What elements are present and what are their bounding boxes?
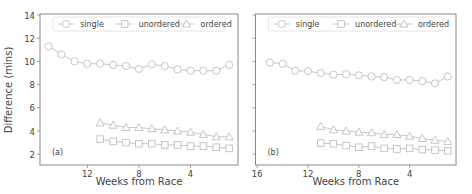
- x-tick-label: 16: [252, 169, 263, 179]
- single-marker: [266, 59, 273, 66]
- x-tick-label: 4: [407, 169, 412, 179]
- unordered-marker: [330, 140, 337, 147]
- unordered-marker: [200, 143, 207, 150]
- panel-label: (a): [52, 148, 63, 157]
- single-marker: [213, 67, 220, 74]
- plot-frame: [256, 14, 457, 165]
- line-chart-figure: Difference (mins) 24681012141284Weeks fr…: [0, 0, 472, 194]
- unordered-marker: [123, 139, 130, 146]
- panel-a: 24681012141284Weeks from Race(a)singleun…: [24, 11, 238, 188]
- unordered-marker: [174, 142, 181, 149]
- y-tick-label: 14: [24, 11, 35, 21]
- unordered-marker: [368, 143, 375, 150]
- legend-item-unordered: unordered: [139, 20, 180, 29]
- ordered-marker: [393, 130, 401, 137]
- unordered-marker: [110, 138, 117, 145]
- single-marker: [419, 78, 426, 85]
- figure: Difference (mins) 24681012141284Weeks fr…: [0, 0, 472, 194]
- series-unordered: [317, 140, 451, 154]
- y-tick-label: 2: [30, 150, 35, 160]
- x-axis-label: Weeks from Race: [96, 176, 183, 187]
- legend: singleunorderedordered: [269, 17, 450, 31]
- unordered-marker: [226, 145, 233, 152]
- unordered-marker: [432, 147, 439, 154]
- legend-single-icon: [63, 20, 70, 27]
- single-marker: [343, 71, 350, 78]
- single-marker: [226, 61, 233, 68]
- x-axis-label: Weeks from Race: [312, 176, 399, 187]
- unordered-marker: [343, 142, 350, 149]
- legend-item-ordered: ordered: [201, 20, 232, 29]
- single-marker: [45, 43, 52, 50]
- single-marker: [71, 58, 78, 65]
- single-marker: [355, 72, 362, 79]
- unordered-marker: [394, 146, 401, 153]
- single-marker: [58, 51, 65, 58]
- unordered-marker: [406, 145, 413, 152]
- unordered-marker: [213, 144, 220, 151]
- single-marker: [330, 71, 337, 78]
- legend: singleunorderedordered: [53, 17, 232, 31]
- single-marker: [97, 60, 104, 67]
- y-tick-label: 12: [24, 34, 35, 44]
- single-marker: [292, 67, 299, 74]
- unordered-marker: [161, 142, 168, 149]
- x-tick-label: 12: [82, 169, 93, 179]
- panel-label: (b): [268, 148, 279, 157]
- series-ordered: [96, 119, 233, 140]
- single-marker: [431, 80, 438, 87]
- single-marker: [444, 73, 451, 80]
- single-marker: [406, 76, 413, 83]
- unordered-marker: [444, 147, 451, 154]
- single-marker: [161, 62, 168, 69]
- single-marker: [200, 67, 207, 74]
- y-tick-label: 10: [24, 57, 35, 67]
- x-tick-label: 4: [188, 169, 193, 179]
- series-unordered: [97, 136, 233, 152]
- single-marker: [148, 61, 155, 68]
- single-marker: [317, 69, 324, 76]
- panel-b: 161284Weeks from Race(b)singleunorderedo…: [252, 14, 456, 187]
- legend-item-ordered: ordered: [418, 20, 449, 29]
- unordered-marker: [419, 146, 426, 153]
- unordered-marker: [97, 136, 104, 143]
- series-single: [45, 43, 233, 75]
- single-marker: [393, 76, 400, 83]
- y-tick-label: 4: [30, 127, 35, 137]
- single-marker: [304, 68, 311, 75]
- y-tick-label: 6: [30, 103, 35, 113]
- legend-unordered-icon: [338, 21, 345, 28]
- single-marker: [279, 60, 286, 67]
- ordered-marker: [225, 133, 233, 140]
- single-marker: [174, 66, 181, 73]
- series-single: [266, 59, 451, 87]
- legend-item-unordered: unordered: [355, 20, 396, 29]
- single-marker: [187, 67, 194, 74]
- legend-item-single: single: [80, 20, 104, 29]
- unordered-marker: [187, 143, 194, 150]
- y-axis-label: Difference (mins): [3, 47, 14, 134]
- single-marker: [84, 60, 91, 67]
- unordered-marker: [356, 144, 363, 151]
- unordered-marker: [317, 140, 324, 147]
- unordered-marker: [136, 140, 143, 147]
- legend-unordered-icon: [121, 21, 128, 28]
- ordered-marker: [317, 122, 325, 129]
- single-marker: [122, 62, 129, 69]
- single-marker: [135, 65, 142, 72]
- single-marker: [368, 73, 375, 80]
- legend-single-icon: [278, 20, 285, 27]
- y-tick-label: 8: [30, 80, 35, 90]
- ordered-marker: [135, 124, 143, 131]
- unordered-marker: [381, 145, 388, 152]
- unordered-marker: [149, 140, 156, 147]
- legend-item-single: single: [296, 20, 320, 29]
- ordered-marker: [96, 119, 104, 126]
- single-marker: [110, 61, 117, 68]
- single-marker: [381, 73, 388, 80]
